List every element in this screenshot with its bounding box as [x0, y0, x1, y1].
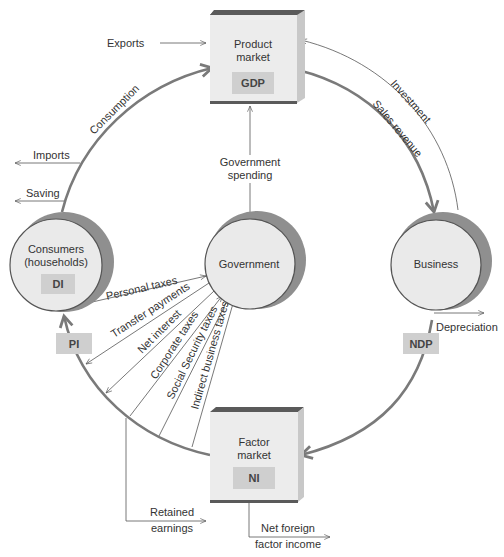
government-label: Government	[219, 258, 280, 270]
exports-label: Exports	[107, 37, 145, 49]
ndp-badge-label: NDP	[409, 338, 432, 350]
factor-market-top	[210, 407, 304, 412]
investment-flow	[301, 40, 458, 210]
gdp-badge-label: GDP	[241, 77, 265, 89]
government-spending-label-line2: spending	[228, 169, 273, 181]
consumers-node: Consumers (households) DI	[10, 212, 114, 312]
imports-label: Imports	[33, 149, 70, 161]
business-label: Business	[414, 258, 459, 270]
pi-badge-label: PI	[69, 338, 79, 350]
product-market-side	[297, 10, 305, 103]
circular-flow-diagram: Exports Imports Saving Consumption Inves…	[0, 0, 504, 557]
factor-market-node: Factor market NI	[210, 407, 304, 503]
factor-market-bottom	[210, 500, 298, 503]
factor-market-side	[298, 407, 304, 502]
ni-badge-label: NI	[249, 472, 260, 484]
product-market-node: Product market GDP	[210, 10, 305, 104]
product-market-label-line1: Product	[234, 38, 272, 50]
depreciation-label: Depreciation	[436, 321, 498, 333]
product-market-bottom	[210, 101, 297, 104]
government-spending-label-line1: Government	[220, 156, 281, 168]
consumption-label: Consumption	[87, 82, 141, 136]
product-market-label-line2: market	[236, 51, 270, 63]
consumers-label-line2: (households)	[24, 256, 88, 268]
saving-label: Saving	[26, 187, 60, 199]
factor-market-label-line2: market	[237, 449, 271, 461]
factor-market-label-line1: Factor	[238, 436, 270, 448]
consumers-label-line1: Consumers	[28, 243, 85, 255]
business-node: Business	[391, 212, 492, 310]
government-node: Government	[205, 211, 306, 309]
di-badge-label: DI	[53, 278, 64, 290]
net-foreign-label-line2: factor income	[255, 538, 321, 550]
retained-earnings-label-line2: earnings	[151, 522, 194, 534]
retained-earnings-label-line1: Retained	[150, 506, 194, 518]
net-foreign-label-line1: Net foreign	[261, 522, 315, 534]
